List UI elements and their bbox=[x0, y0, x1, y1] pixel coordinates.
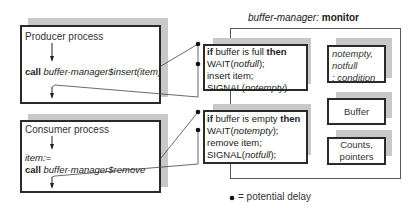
delay-dot-icon bbox=[196, 42, 201, 47]
arrowhead-icon bbox=[50, 93, 54, 99]
legend-dot-icon bbox=[230, 196, 235, 201]
connectors bbox=[0, 0, 419, 208]
legend-text: = potential delay bbox=[238, 191, 311, 202]
arrowhead-icon bbox=[50, 56, 54, 62]
delay-dot-icon bbox=[196, 110, 201, 115]
arrowhead-icon bbox=[50, 144, 54, 150]
arrowhead-icon bbox=[50, 183, 54, 189]
delay-dot-icon bbox=[196, 62, 201, 67]
delay-dot-icon bbox=[196, 128, 201, 133]
